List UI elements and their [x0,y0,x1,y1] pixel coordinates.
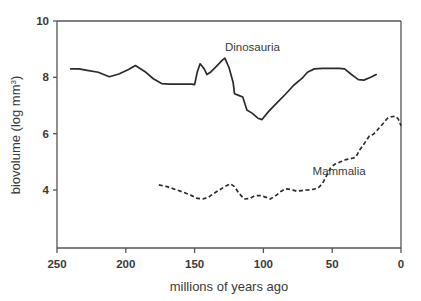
x-tick-label: 250 [47,258,66,270]
axes [57,21,401,248]
y-tick-label: 4 [43,184,50,196]
x-tick-label: 150 [185,258,204,270]
y-tick-label: 10 [36,15,49,27]
y-tick-label: 6 [43,128,49,140]
series-label-mammalia: Mammalia [313,165,367,177]
y-tick-label: 8 [43,71,50,83]
x-axis-ticks: 250200150100500 [47,248,404,270]
series-label-dinosauria: Dinosauria [225,41,281,53]
x-tick-label: 0 [398,258,404,270]
x-axis-title: millions of years ago [170,279,289,294]
biovolume-line-chart: 46810 250200150100500 DinosauriaMammalia… [0,0,421,301]
chart-container: 46810 250200150100500 DinosauriaMammalia… [0,0,421,301]
y-axis-title: biovolume (log mm3) [8,76,23,195]
data-series-group [71,58,401,199]
x-tick-label: 100 [254,258,273,270]
y-axis-ticks: 46810 [36,15,57,196]
series-line-dinosauria [71,58,376,119]
x-tick-label: 200 [116,258,135,270]
x-tick-label: 50 [326,258,339,270]
series-line-mammalia [159,116,401,199]
